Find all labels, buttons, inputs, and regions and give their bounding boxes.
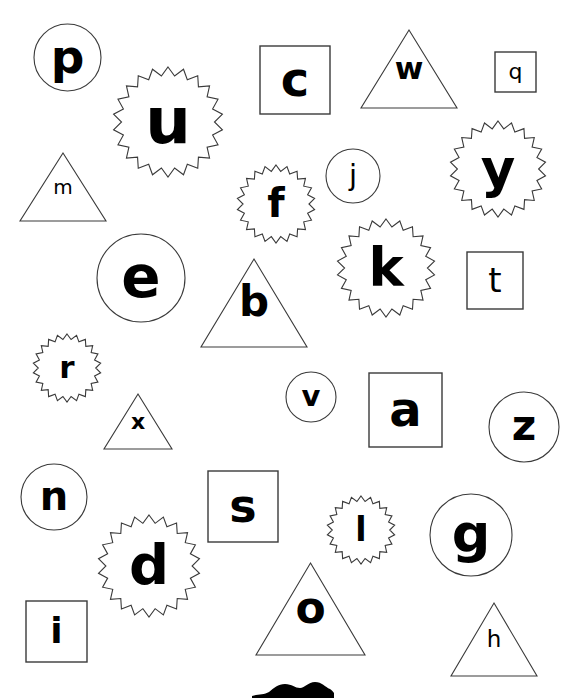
circle-outline-icon [96, 233, 186, 323]
circle-outline-icon [488, 391, 560, 463]
letter-starburst-l: l [326, 495, 396, 565]
letter-starburst-r: r [32, 333, 102, 403]
circle-outline-icon [285, 371, 337, 423]
letter-square-i: i [25, 600, 88, 663]
letter-square-a: a [368, 372, 443, 448]
square-outline-icon [368, 372, 443, 448]
square-outline-icon [207, 470, 279, 543]
letter-circle-v: v [285, 371, 337, 423]
starburst-outline-icon [112, 66, 224, 178]
triangle-outline-icon [255, 562, 366, 656]
letter-starburst-d: d [97, 514, 201, 618]
letter-circle-j: j [325, 148, 381, 204]
cut-off-dark-shape [252, 676, 334, 698]
letter-starburst-y: y [449, 120, 547, 218]
starburst-outline-icon [32, 333, 102, 403]
square-outline-icon [259, 45, 331, 115]
letter-starburst-f: f [236, 164, 316, 244]
letter-starburst-k: k [336, 218, 436, 318]
letter-square-s: s [207, 470, 279, 543]
worksheet-page: pucwqmfjyektbrvazxnsdlgioh [0, 0, 584, 698]
letter-triangle-m: m [19, 152, 107, 222]
square-outline-icon [25, 600, 88, 663]
letter-circle-z: z [488, 391, 560, 463]
letter-square-q: q [494, 51, 537, 93]
letter-triangle-b: b [200, 258, 308, 348]
letter-circle-n: n [20, 463, 88, 531]
circle-outline-icon [325, 148, 381, 204]
circle-outline-icon [33, 23, 102, 92]
starburst-outline-icon [449, 120, 547, 218]
square-outline-icon [494, 51, 537, 93]
letter-square-c: c [259, 45, 331, 115]
letter-triangle-w: w [360, 29, 458, 109]
triangle-outline-icon [200, 258, 308, 348]
triangle-outline-icon [19, 152, 107, 222]
letter-triangle-o: o [255, 562, 366, 656]
starburst-outline-icon [97, 514, 201, 618]
letter-circle-e: e [96, 233, 186, 323]
circle-outline-icon [429, 493, 513, 577]
starburst-outline-icon [336, 218, 436, 318]
circle-outline-icon [20, 463, 88, 531]
letter-square-t: t [466, 251, 524, 310]
triangle-outline-icon [360, 29, 458, 109]
triangle-outline-icon [103, 393, 173, 450]
starburst-outline-icon [236, 164, 316, 244]
letter-triangle-x: x [103, 393, 173, 450]
square-outline-icon [466, 251, 524, 310]
starburst-outline-icon [326, 495, 396, 565]
letter-circle-p: p [33, 23, 102, 92]
letter-starburst-u: u [112, 66, 224, 178]
letter-triangle-h: h [450, 602, 538, 677]
triangle-outline-icon [450, 602, 538, 677]
letter-circle-g: g [429, 493, 513, 577]
